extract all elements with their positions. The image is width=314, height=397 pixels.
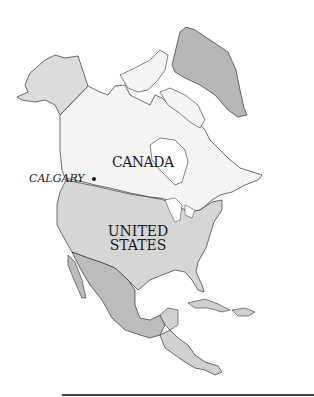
central-america-region bbox=[160, 330, 222, 375]
united-states-label-line2: STATES bbox=[103, 238, 173, 252]
north-america-map bbox=[0, 0, 314, 397]
cuba bbox=[188, 299, 230, 312]
calgary-marker bbox=[92, 177, 96, 181]
bottom-divider bbox=[62, 394, 314, 396]
united-states-label: UNITED STATES bbox=[103, 224, 173, 252]
arctic-islands bbox=[120, 50, 168, 92]
hispaniola bbox=[232, 308, 255, 316]
calgary-label: CALGARY bbox=[29, 173, 85, 184]
united-states-label-line1: UNITED bbox=[103, 224, 173, 238]
canada-label: CANADA bbox=[112, 155, 174, 169]
